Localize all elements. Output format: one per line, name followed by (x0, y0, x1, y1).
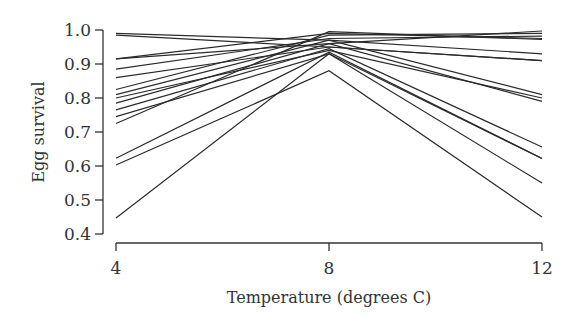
series-line-9 (116, 50, 542, 98)
y-tick-label: 1.0 (64, 20, 91, 40)
y-tick-label: 0.7 (64, 122, 91, 142)
x-tick-label: 8 (324, 258, 335, 278)
y-tick-label: 0.6 (64, 156, 91, 176)
x-axis-title: Temperature (degrees C) (227, 288, 431, 307)
chart: 0.40.50.60.70.80.91.0 4812 Temperature (… (0, 0, 585, 324)
y-tick-label: 0.4 (64, 224, 91, 244)
series-line-12 (116, 54, 542, 159)
y-tick-label: 0.5 (64, 190, 91, 210)
y-axis-title: Egg survival (29, 81, 48, 182)
x-ticks: 4812 (111, 243, 553, 278)
y-axis: 0.40.50.60.70.80.91.0 (64, 20, 103, 244)
y-ticks: 0.40.50.60.70.80.91.0 (64, 20, 103, 244)
x-tick-label: 12 (531, 258, 553, 278)
x-axis: 4812 (111, 243, 553, 278)
y-tick-label: 0.9 (64, 54, 91, 74)
series-line-7 (116, 33, 542, 89)
x-tick-label: 4 (111, 258, 122, 278)
series-lines (116, 31, 542, 218)
y-tick-label: 0.8 (64, 88, 91, 108)
series-line-13 (116, 32, 542, 124)
